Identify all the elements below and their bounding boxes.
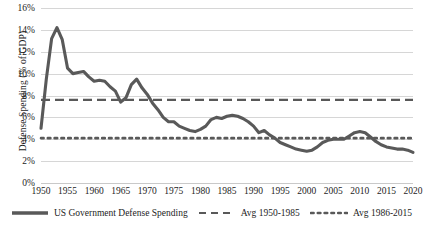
x-tick-label: 2020 xyxy=(404,186,423,196)
x-tick-label: 2000 xyxy=(297,186,316,196)
chart-legend: US Government Defense SpendingAvg 1950-1… xyxy=(0,203,423,223)
x-tick-label: 2010 xyxy=(350,186,369,196)
x-tick-label: 2005 xyxy=(324,186,343,196)
x-tick-label: 1970 xyxy=(138,186,157,196)
y-tick-label: 2% xyxy=(22,156,35,166)
y-tick-label: 12% xyxy=(18,47,35,57)
x-tick-label: 1965 xyxy=(111,186,130,196)
legend-label: Avg 1986-2015 xyxy=(353,208,412,218)
y-tick-label: 8% xyxy=(22,91,35,101)
x-tick-label: 1975 xyxy=(164,186,183,196)
defense-spending-chart: Defense Spending (% of GDP) 16%14%12%10%… xyxy=(0,0,423,226)
plot-area xyxy=(41,8,413,183)
x-tick-label: 1955 xyxy=(58,186,77,196)
series-layer xyxy=(41,8,413,183)
y-tick-label: 10% xyxy=(18,69,35,79)
dotted-line-swatch xyxy=(310,208,348,218)
x-axis-tick-labels: 1950195519601965197019751980198519901995… xyxy=(41,186,413,200)
x-tick-label: 1950 xyxy=(32,186,51,196)
legend-item[interactable]: Avg 1986-2015 xyxy=(310,208,412,218)
x-tick-label: 2015 xyxy=(377,186,396,196)
solid-line-swatch xyxy=(11,208,49,218)
y-tick-label: 16% xyxy=(18,3,35,13)
dashed-line-swatch xyxy=(198,208,236,218)
series-line xyxy=(41,28,413,153)
x-tick-label: 1960 xyxy=(85,186,104,196)
x-tick-label: 1985 xyxy=(218,186,237,196)
legend-item[interactable]: US Government Defense Spending xyxy=(11,208,188,218)
legend-label: US Government Defense Spending xyxy=(54,208,188,218)
gridline-0 xyxy=(41,183,413,184)
x-tick-label: 1995 xyxy=(271,186,290,196)
y-tick-label: 4% xyxy=(22,134,35,144)
legend-label: Avg 1950-1985 xyxy=(241,208,300,218)
legend-item[interactable]: Avg 1950-1985 xyxy=(198,208,300,218)
x-tick-label: 1980 xyxy=(191,186,210,196)
x-tick-label: 1990 xyxy=(244,186,263,196)
y-axis-tick-labels: 16%14%12%10%8%6%4%2%0% xyxy=(0,8,38,183)
y-tick-label: 6% xyxy=(22,112,35,122)
y-tick-label: 14% xyxy=(18,25,35,35)
